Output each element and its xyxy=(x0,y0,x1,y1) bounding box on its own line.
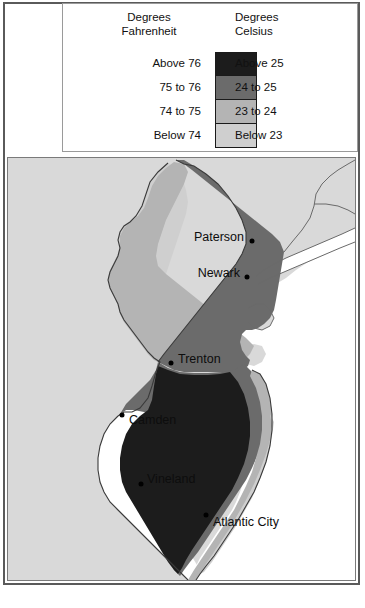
city-dot-paterson xyxy=(250,239,255,244)
legend-row: 75 to 76 24 to 25 xyxy=(63,76,357,100)
legend-label-celsius: Above 25 xyxy=(235,56,355,71)
city-label-paterson: Paterson xyxy=(194,231,244,244)
legend-box: Degrees Fahrenheit Degrees Celsius Above… xyxy=(62,3,358,152)
city-dot-atlantic-city xyxy=(204,513,209,518)
legend-heading-fahrenheit: Degrees Fahrenheit xyxy=(79,11,219,38)
legend-row: Above 76 Above 25 xyxy=(63,52,357,76)
legend-label-fahrenheit: Below 74 xyxy=(79,128,201,143)
city-label-camden: Camden xyxy=(129,414,176,427)
city-label-vineland: Vineland xyxy=(147,473,195,486)
city-dot-camden xyxy=(120,413,125,418)
map-graphic xyxy=(8,158,355,580)
city-label-trenton: Trenton xyxy=(178,353,221,366)
legend-headings: Degrees Fahrenheit Degrees Celsius xyxy=(63,11,357,51)
legend-label-celsius: 24 to 25 xyxy=(235,80,355,95)
city-dot-newark xyxy=(245,275,250,280)
legend-label-fahrenheit: 74 to 75 xyxy=(79,104,201,119)
legend-label-celsius: 23 to 24 xyxy=(235,104,355,119)
city-dot-vineland xyxy=(139,482,144,487)
legend-rows: Above 76 Above 25 75 to 76 24 to 25 74 t… xyxy=(63,52,357,148)
map-page: Degrees Fahrenheit Degrees Celsius Above… xyxy=(0,0,365,608)
legend-label-celsius: Below 23 xyxy=(235,128,355,143)
legend-label-fahrenheit: 75 to 76 xyxy=(79,80,201,95)
city-label-newark: Newark xyxy=(198,267,240,280)
legend-label-fahrenheit: Above 76 xyxy=(79,56,201,71)
city-dot-trenton xyxy=(169,361,174,366)
legend-row: 74 to 75 23 to 24 xyxy=(63,100,357,124)
legend-heading-celsius: Degrees Celsius xyxy=(235,11,355,38)
city-label-atlantic-city: Atlantic City xyxy=(213,516,279,529)
legend-row: Below 74 Below 23 xyxy=(63,124,357,148)
map-panel: Paterson Newark Trenton Camden Vineland … xyxy=(7,157,356,581)
